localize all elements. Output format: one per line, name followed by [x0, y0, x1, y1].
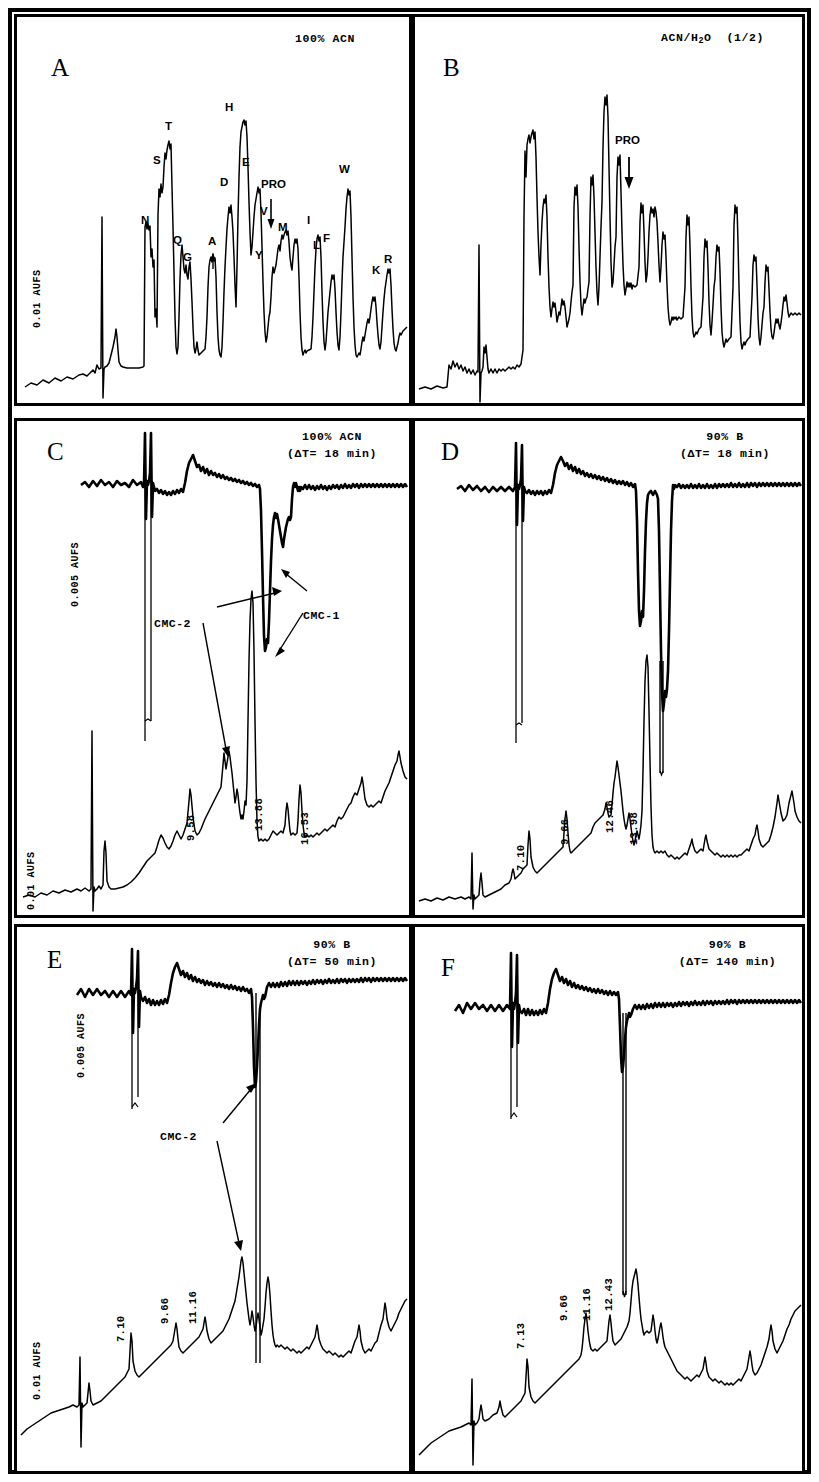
peak-label-T: T: [165, 121, 172, 133]
panel-b: B ACN/H2O (1/2) PRO: [412, 14, 805, 406]
peak-label-M: M: [278, 222, 288, 234]
retention-time-11-16-f: 11.16: [581, 1288, 593, 1321]
panel-e-letter: E: [47, 947, 62, 972]
panel-d-letter: D: [441, 439, 459, 464]
panel-e-yaxis-label-bottom: 0.01 AUFS: [32, 1341, 43, 1400]
peak-label-G: G: [183, 252, 192, 264]
retention-time-12-43-f: 12.43: [603, 1278, 615, 1311]
panel-e-chromatogram: [17, 927, 409, 1471]
panel-b-letter: B: [443, 55, 460, 80]
panel-c-cmc2-arrow-1: [217, 587, 282, 607]
panel-c-cmc2-arrow-2: [203, 623, 230, 757]
retention-time-13-98-d: 13.98: [628, 812, 640, 845]
panel-f-letter: F: [441, 955, 455, 980]
peak-label-D: D: [220, 177, 228, 189]
panel-d-title-line2: (ΔT= 18 min): [655, 446, 795, 463]
peak-label-I: I: [307, 215, 310, 227]
panel-c-title-line1: 100% ACN: [262, 429, 402, 446]
retention-time-9-66-d: 9.66: [559, 819, 571, 845]
panel-e-title-line1: 90% B: [262, 937, 402, 954]
panel-e-title-line2: (ΔT= 50 min): [262, 954, 402, 971]
peak-label-H: H: [225, 102, 233, 114]
retention-time-9-58: 9.58: [185, 815, 197, 841]
panel-b-title: ACN/H2O (1/2): [630, 30, 795, 47]
panel-a-letter: A: [51, 55, 69, 80]
panel-d: D 90% B (ΔT= 18 min) 7.10 9.66 12.46 13.…: [412, 418, 805, 918]
panel-c-cmc1-arrow-2: [275, 613, 303, 657]
peak-label-PRO-b: PRO: [615, 135, 640, 147]
panel-e-yaxis-label-top: 0.005 AUFS: [76, 1013, 87, 1078]
panel-c-yaxis-label-bottom: 0.01 AUFS: [26, 851, 37, 910]
retention-time-7-10-e: 7.10: [115, 1316, 127, 1342]
figure-root: A 100% ACN 0.01 AUFS N S T Q G A D H E Y…: [0, 0, 819, 1482]
panel-b-chromatogram: [415, 17, 802, 403]
peak-label-L: L: [313, 240, 320, 252]
annotation-cmc-2: CMC-2: [154, 617, 191, 630]
panel-c-yaxis-label-top: 0.005 AUFS: [70, 542, 81, 607]
panel-d-title-line1: 90% B: [655, 429, 795, 446]
retention-time-9-66-e: 9.66: [159, 1298, 171, 1324]
annotation-cmc-2-e: CMC-2: [160, 1130, 197, 1143]
peak-label-V: V: [260, 206, 268, 218]
panel-c-cmc1-arrow-1: [281, 569, 307, 591]
panel-c-letter: C: [47, 439, 64, 464]
peak-label-W: W: [339, 164, 350, 176]
peak-label-E: E: [242, 157, 250, 169]
peak-label-R: R: [384, 254, 392, 266]
panel-a-title: 100% ACN: [255, 31, 395, 48]
panel-f-title-line2: (ΔT= 140 min): [655, 954, 800, 971]
panel-a-pro-arrow: [268, 199, 275, 229]
panel-e-cmc2-arrow-2: [217, 1141, 243, 1251]
panel-a-chromatogram: [17, 17, 409, 403]
retention-time-16-53: 16.53: [299, 812, 311, 845]
panel-c-title-line2: (ΔT= 18 min): [262, 446, 402, 463]
panel-a-yaxis-label: 0.01 AUFS: [32, 269, 43, 328]
panel-a: A 100% ACN 0.01 AUFS N S T Q G A D H E Y…: [14, 14, 412, 406]
peak-label-F: F: [323, 233, 330, 245]
peak-label-S: S: [153, 155, 161, 167]
peak-label-A: A: [208, 236, 216, 248]
panel-e: E 90% B (ΔT= 50 min) 0.005 AUFS 0.01 AUF…: [14, 924, 412, 1474]
retention-time-11-16-e: 11.16: [187, 1291, 199, 1324]
peak-label-Q: Q: [173, 235, 182, 247]
panel-c: C 100% ACN (ΔT= 18 min) 0.005 AUFS 0.01 …: [14, 418, 412, 918]
retention-time-7-13-f: 7.13: [515, 1323, 527, 1349]
annotation-cmc-1: CMC-1: [303, 609, 340, 622]
panel-c-chromatogram: [17, 421, 409, 915]
panel-e-cmc2-arrow-1: [223, 1083, 257, 1123]
peak-label-K: K: [372, 265, 380, 277]
retention-time-13-88: 13.88: [253, 798, 265, 831]
panel-d-chromatogram: [415, 421, 802, 915]
retention-time-12-46-d: 12.46: [604, 800, 616, 833]
panel-b-pro-arrow: [625, 157, 634, 189]
peak-label-N: N: [141, 215, 149, 227]
panel-f-chromatogram: [415, 927, 802, 1471]
panel-f-title-line1: 90% B: [655, 937, 800, 954]
panel-f: F 90% B (ΔT= 140 min) 7.13 9.66 11.16 12…: [412, 924, 805, 1474]
peak-label-Y: Y: [255, 250, 263, 262]
retention-time-7-10-d: 7.10: [515, 845, 527, 871]
retention-time-9-66-f: 9.66: [558, 1295, 570, 1321]
peak-label-PRO: PRO: [261, 179, 286, 191]
